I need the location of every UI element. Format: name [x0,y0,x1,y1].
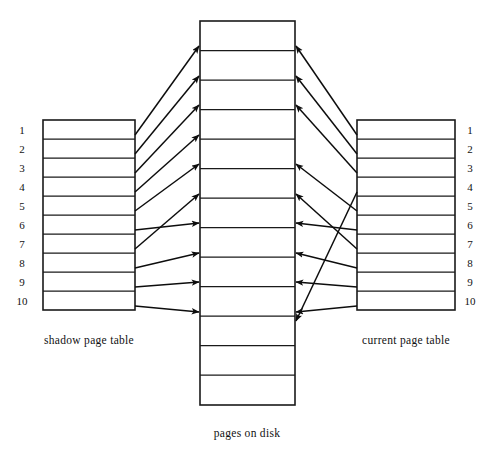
shadow-arrow-5 [135,164,199,211]
left-row-label: 8 [19,257,25,269]
left-row-label: 6 [19,219,25,231]
left-row-label: 4 [19,181,25,193]
right-row-label: 6 [467,219,473,231]
right-row-label: 10 [465,295,477,307]
current-arrow-9 [296,282,357,287]
left-row-label: 2 [19,143,25,155]
diagram-canvas: 1 2 3 4 5 6 7 8 9 10 [0,0,491,464]
left-row-label: 10 [17,295,29,307]
right-row-label: 1 [467,124,473,136]
shadow-paging-diagram: 1 2 3 4 5 6 7 8 9 10 [0,0,491,464]
left-row-label: 7 [19,238,25,250]
left-row-label: 3 [19,162,25,174]
current-to-disk-arrows [296,46,357,321]
right-row-label: 9 [467,276,473,288]
shadow-arrow-7 [135,194,199,249]
current-arrow-5 [296,164,357,211]
current-arrow-10 [296,306,357,312]
right-row-label: 5 [467,200,473,212]
shadow-arrow-6 [135,223,199,230]
left-table-shadow-page-table: 1 2 3 4 5 6 7 8 9 10 [17,120,136,310]
left-row-label: 1 [19,124,25,136]
left-row-label: 5 [19,200,25,212]
caption-current-page-table: current page table [362,334,450,347]
center-table-outline [200,21,295,405]
right-row-label: 2 [467,143,473,155]
shadow-to-disk-arrows [135,46,199,312]
shadow-arrow-1 [135,46,199,135]
right-row-label: 4 [467,181,473,193]
current-arrow-4 [296,192,357,321]
center-table-pages-on-disk [200,21,295,405]
current-arrow-6 [296,223,357,230]
right-table-current-page-table: 1 2 3 4 5 6 7 8 9 10 [357,120,476,310]
caption-shadow-page-table: shadow page table [44,334,134,347]
current-arrow-7 [296,194,357,249]
current-arrow-1 [296,46,357,135]
right-row-label: 7 [467,238,473,250]
shadow-arrow-9 [135,282,199,287]
right-row-label: 3 [467,162,473,174]
caption-pages-on-disk: pages on disk [214,427,281,440]
left-row-label: 9 [19,276,25,288]
shadow-arrow-10 [135,306,199,312]
right-row-label: 8 [467,257,473,269]
shadow-arrow-8 [135,253,199,268]
